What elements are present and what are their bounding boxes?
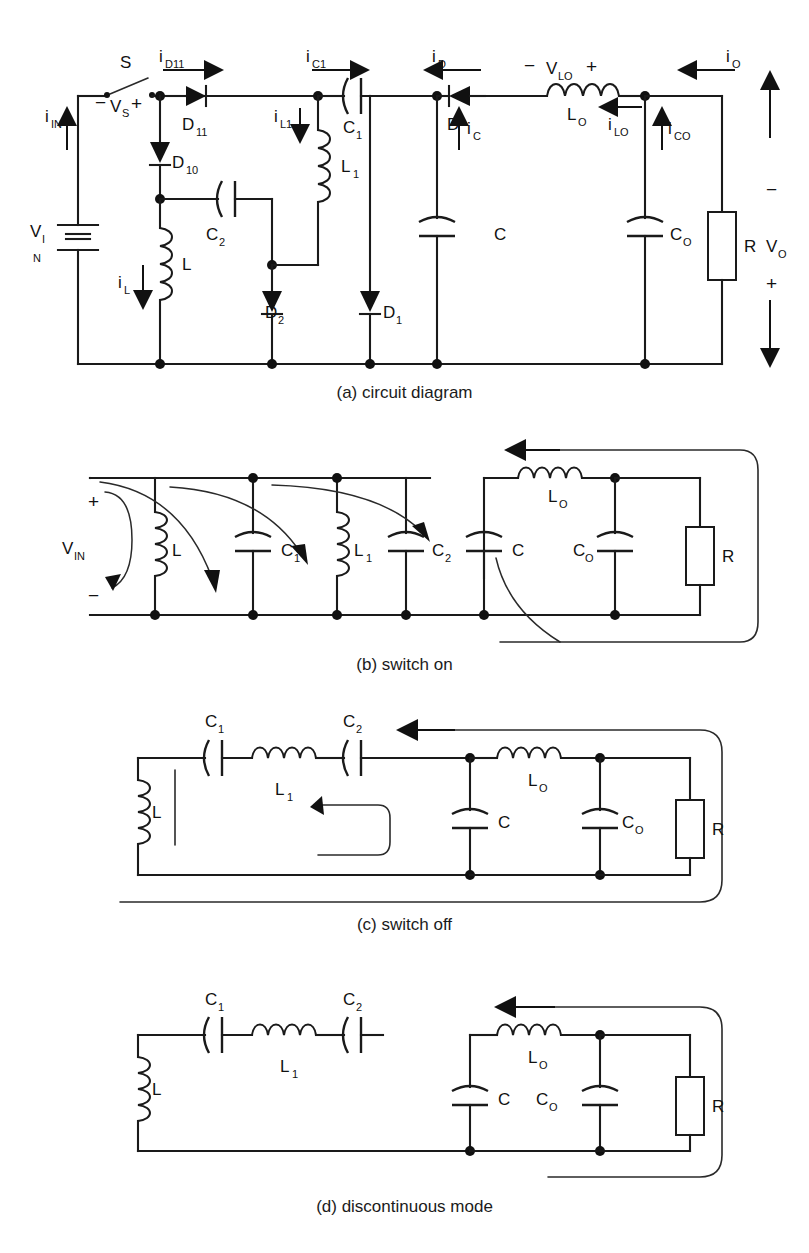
panel-b-switch-on: V IN + − L C 1 L 1 C 2 C L O C O R <box>0 430 809 655</box>
label-b-c2-sub: 2 <box>445 552 451 564</box>
label-b-vin-sub: IN <box>74 550 85 562</box>
label-c-l1-sub: 1 <box>287 791 293 803</box>
label-d2-sub: 2 <box>278 314 284 326</box>
label-d-l: L <box>152 1080 161 1099</box>
figure-sheet: S − V S + i IN V I N i D11 D 11 D 10 i L… <box>0 0 809 1253</box>
label-i-l1: i <box>274 107 278 126</box>
label-l: L <box>182 255 191 274</box>
label-i-lo: i <box>608 115 612 134</box>
label-c-l1: L <box>275 780 284 799</box>
label-d11: D <box>182 115 194 134</box>
label-c-l: L <box>152 803 161 822</box>
label-c-lo: L <box>528 771 537 790</box>
label-vlo-minus: − <box>524 55 535 76</box>
label-c1: C <box>343 118 355 137</box>
label-b-co-sub: O <box>585 552 594 564</box>
label-b-l1-sub: 1 <box>366 552 372 564</box>
label-vs-plus: + <box>131 93 142 114</box>
label-vo-plus: + <box>766 273 777 294</box>
label-i-d11: i <box>159 47 163 66</box>
label-d1-sub: 1 <box>396 314 402 326</box>
label-c2: C <box>206 225 218 244</box>
label-d: D <box>447 115 459 134</box>
label-c2-sub: 2 <box>219 236 225 248</box>
label-i-o-sub: O <box>732 58 741 70</box>
label-c-c2: C <box>343 712 355 731</box>
label-b-l1: L <box>354 541 363 560</box>
label-b-l: L <box>172 541 181 560</box>
label-b-r: R <box>722 547 734 566</box>
label-c-c2-sub: 2 <box>356 723 362 735</box>
label-d11-sub: 11 <box>196 126 207 138</box>
label-d-c2: C <box>343 990 355 1009</box>
label-vlo: V <box>546 59 558 78</box>
label-d2: D <box>265 303 277 322</box>
label-b-c2: C <box>432 541 444 560</box>
label-c-c1: C <box>205 712 217 731</box>
label-i-l-sub: L <box>124 284 130 296</box>
label-i-c1: i <box>306 47 310 66</box>
label-d10-sub: 10 <box>186 164 198 176</box>
label-b-c1: C <box>281 541 293 560</box>
label-vin: V <box>30 222 42 241</box>
label-c-r: R <box>712 820 724 839</box>
label-c-co-sub: O <box>635 824 644 836</box>
label-c-c: C <box>498 813 510 832</box>
label-c-co: C <box>622 813 634 832</box>
label-d-l1-sub: 1 <box>292 1068 298 1080</box>
caption-panel-d: (d) discontinuous mode <box>0 1197 809 1217</box>
label-l1: L <box>341 157 350 176</box>
label-b-plus: + <box>88 491 99 512</box>
label-b-lo-sub: O <box>559 498 568 510</box>
label-d-co: C <box>536 1090 548 1109</box>
label-d10: D <box>172 153 184 172</box>
label-i-c: i <box>467 119 471 138</box>
label-lo: L <box>567 105 576 124</box>
label-vo-sub: O <box>778 248 787 260</box>
label-b-c: C <box>512 541 524 560</box>
label-i-d-sub: D <box>438 58 446 70</box>
label-i-in-sub: IN <box>51 118 62 130</box>
label-vlo-plus: + <box>586 56 597 77</box>
label-d-c1-sub: 1 <box>218 1001 224 1013</box>
label-d-c: C <box>498 1090 510 1109</box>
label-i-d: i <box>432 47 436 66</box>
label-b-minus: − <box>88 585 99 606</box>
label-c-c1-sub: 1 <box>218 723 224 735</box>
panel-c-switch-off: C 1 L 1 C 2 L C L O C O R <box>0 690 809 910</box>
label-d-l1: L <box>280 1057 289 1076</box>
label-i-c1-sub: C1 <box>312 58 326 70</box>
label-r: R <box>744 237 756 256</box>
label-lo-sub: O <box>578 116 587 128</box>
label-vin-sub1: I <box>42 233 45 245</box>
label-i-o: i <box>726 47 730 66</box>
label-i-l1-sub: L1 <box>280 118 292 130</box>
label-b-vin: V <box>62 539 74 558</box>
label-i-co: i <box>668 119 672 138</box>
label-d-c1: C <box>205 990 217 1009</box>
label-i-co-sub: CO <box>674 130 691 142</box>
label-c-lo-sub: O <box>539 782 548 794</box>
panel-a-circuit-diagram: S − V S + i IN V I N i D11 D 11 D 10 i L… <box>0 0 809 400</box>
label-i-c-sub: C <box>473 130 481 142</box>
label-l1-sub: 1 <box>353 168 359 180</box>
caption-panel-a: (a) circuit diagram <box>0 383 809 403</box>
label-vs-sub: S <box>122 107 129 119</box>
label-b-c1-sub: 1 <box>294 552 300 564</box>
label-i-l: i <box>118 273 122 292</box>
label-d-c2-sub: 2 <box>356 1001 362 1013</box>
label-d-r: R <box>712 1097 724 1116</box>
label-i-d11-sub: D11 <box>165 58 184 70</box>
label-b-lo: L <box>548 487 557 506</box>
label-d-lo-sub: O <box>539 1059 548 1071</box>
label-vo-minus: − <box>766 179 777 200</box>
label-co: C <box>670 225 682 244</box>
panel-d-discontinuous-mode: C 1 L 1 C 2 L C L O C O R <box>0 955 809 1180</box>
label-d-lo: L <box>528 1048 537 1067</box>
label-d1: D <box>383 303 395 322</box>
label-c1-sub: 1 <box>356 129 362 141</box>
label-d-co-sub: O <box>549 1101 558 1113</box>
label-vs-minus: − <box>95 92 106 113</box>
label-i-in: i <box>45 107 49 126</box>
label-i-lo-sub: LO <box>614 126 629 138</box>
